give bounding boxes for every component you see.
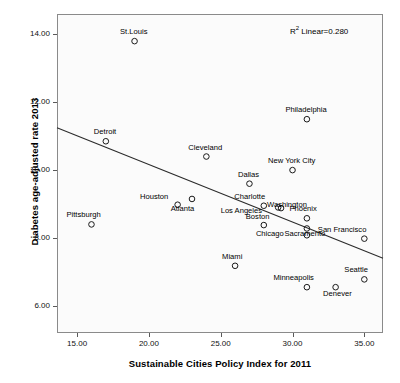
scatter-plot-figure: Diabetes age-adjusted rate 2013 St.Louis… bbox=[0, 0, 400, 383]
data-point-label: Dallas bbox=[238, 171, 259, 179]
data-point-marker bbox=[132, 38, 138, 44]
data-point-marker bbox=[261, 222, 267, 228]
y-tick-mark bbox=[53, 238, 57, 239]
data-point-label: Boston bbox=[246, 213, 270, 221]
data-point-marker bbox=[304, 116, 310, 122]
data-point-label: Cleveland bbox=[188, 144, 222, 152]
y-tick-label: 8.00 bbox=[16, 233, 50, 242]
data-point-label: St.Louis bbox=[120, 28, 147, 36]
data-point-label: Denever bbox=[323, 290, 352, 298]
data-point-label: Houston bbox=[140, 193, 168, 201]
data-point-label: Philadelphia bbox=[285, 106, 326, 114]
x-tick-mark bbox=[77, 333, 78, 337]
data-point-label: Detroit bbox=[94, 128, 116, 136]
data-point-label: Minneapolis bbox=[273, 274, 314, 282]
data-point-label: Charlotte bbox=[234, 193, 265, 201]
plot-canvas bbox=[57, 14, 383, 333]
data-point-marker bbox=[189, 196, 195, 202]
data-point-marker bbox=[304, 284, 310, 290]
data-point-marker bbox=[362, 277, 368, 283]
data-point-label: Pittsburgh bbox=[66, 211, 100, 219]
x-tick-label: 30.00 bbox=[271, 339, 315, 348]
data-point-label: San Francisco bbox=[318, 226, 367, 234]
r-squared-annotation: R2 Linear=0.280 bbox=[290, 25, 348, 36]
x-axis-title: Sustainable Cities Policy Index for 2011 bbox=[57, 358, 383, 369]
x-tick-label: 20.00 bbox=[127, 339, 171, 348]
data-point-label: Miami bbox=[222, 253, 242, 261]
x-tick-mark bbox=[293, 333, 294, 337]
data-point-label: New York City bbox=[268, 157, 315, 165]
data-point-marker bbox=[290, 167, 296, 173]
y-tick-label: 10.00 bbox=[16, 165, 50, 174]
y-tick-label: 6.00 bbox=[16, 301, 50, 310]
data-point-marker bbox=[232, 263, 238, 269]
data-point-label: Phoenix bbox=[289, 205, 316, 213]
y-tick-mark bbox=[53, 170, 57, 171]
x-tick-label: 15.00 bbox=[55, 339, 99, 348]
data-point-marker bbox=[89, 222, 95, 228]
data-point-label: Atlanta bbox=[171, 205, 195, 213]
x-tick-label: 25.00 bbox=[199, 339, 243, 348]
data-point-marker bbox=[204, 154, 210, 160]
y-tick-label: 14.00 bbox=[16, 29, 50, 38]
y-tick-mark bbox=[53, 34, 57, 35]
x-tick-mark bbox=[221, 333, 222, 337]
y-tick-mark bbox=[53, 102, 57, 103]
y-tick-mark bbox=[53, 306, 57, 307]
data-point-marker bbox=[103, 138, 109, 144]
data-point-marker bbox=[304, 215, 310, 221]
data-point-label: Seattle bbox=[344, 266, 368, 274]
r-squared-value: Linear=0.280 bbox=[299, 27, 348, 36]
data-point-marker bbox=[247, 181, 253, 187]
y-tick-label: 12.00 bbox=[16, 97, 50, 106]
x-tick-mark bbox=[149, 333, 150, 337]
x-tick-mark bbox=[364, 333, 365, 337]
data-point-label: Chicago bbox=[256, 230, 284, 238]
x-tick-label: 35.00 bbox=[342, 339, 386, 348]
data-point-marker bbox=[362, 236, 368, 242]
